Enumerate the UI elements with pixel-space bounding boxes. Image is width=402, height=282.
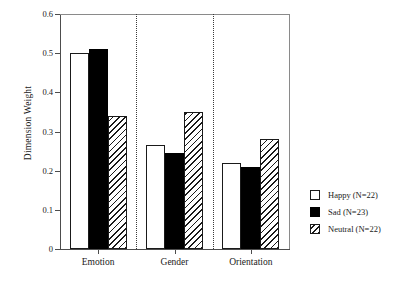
y-tick-label: 0 bbox=[49, 244, 53, 254]
black-square-icon bbox=[310, 207, 320, 217]
plot-top-border bbox=[60, 14, 290, 15]
y-tick-label: 0.2 bbox=[42, 166, 53, 176]
group-separator bbox=[213, 14, 214, 249]
bar-gender-neutral bbox=[184, 112, 203, 249]
legend-item-neutral: Neutral (N=22) bbox=[310, 220, 381, 237]
x-tick-mark bbox=[98, 249, 99, 254]
plot-area: 00.10.20.30.40.50.6 EmotionGenderOrienta… bbox=[60, 14, 289, 249]
y-tick-mark bbox=[55, 171, 60, 172]
white-square-icon bbox=[310, 190, 320, 200]
bar-emotion-happy bbox=[70, 53, 89, 249]
hatched-square-icon bbox=[310, 224, 320, 234]
legend-label: Neutral (N=22) bbox=[328, 224, 381, 234]
x-tick-mark bbox=[251, 249, 252, 254]
y-tick-mark bbox=[55, 53, 60, 54]
legend-item-happy: Happy (N=22) bbox=[310, 186, 381, 203]
y-axis-title: Dimension Weight bbox=[23, 48, 33, 198]
x-tick-label-emotion: Emotion bbox=[82, 257, 115, 267]
legend-item-sad: Sad (N=23) bbox=[310, 203, 381, 220]
x-tick-label-orientation: Orientation bbox=[229, 257, 272, 267]
chart-legend: Happy (N=22)Sad (N=23)Neutral (N=22) bbox=[310, 186, 381, 237]
bar-gender-happy bbox=[146, 145, 165, 249]
y-tick-label: 0.3 bbox=[42, 127, 53, 137]
plot-right-border bbox=[289, 14, 290, 249]
legend-label: Happy (N=22) bbox=[328, 190, 378, 200]
bar-emotion-neutral bbox=[108, 116, 127, 249]
legend-label: Sad (N=23) bbox=[328, 207, 368, 217]
y-tick-label: 0.4 bbox=[42, 87, 53, 97]
bar-orientation-sad bbox=[241, 167, 260, 249]
y-tick-mark bbox=[55, 92, 60, 93]
bar-orientation-happy bbox=[222, 163, 241, 249]
y-tick-label: 0.6 bbox=[42, 9, 53, 19]
y-tick-mark bbox=[55, 249, 60, 250]
bar-orientation-neutral bbox=[260, 139, 279, 249]
y-tick-label: 0.5 bbox=[42, 48, 53, 58]
x-tick-label-gender: Gender bbox=[161, 257, 189, 267]
y-tick-mark bbox=[55, 210, 60, 211]
y-tick-mark bbox=[55, 14, 60, 15]
x-tick-mark bbox=[175, 249, 176, 254]
y-tick-mark bbox=[55, 132, 60, 133]
bar-gender-sad bbox=[165, 153, 184, 249]
bar-emotion-sad bbox=[89, 49, 108, 249]
y-tick-label: 0.1 bbox=[42, 205, 53, 215]
group-separator bbox=[136, 14, 137, 249]
y-axis-line bbox=[60, 14, 61, 249]
bar-chart-figure: Dimension Weight 00.10.20.30.40.50.6 Emo… bbox=[0, 0, 402, 282]
